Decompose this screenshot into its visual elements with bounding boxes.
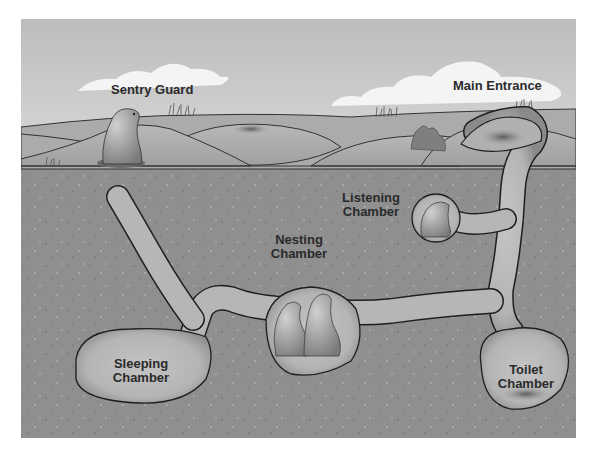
label-main-entrance: Main Entrance [453, 79, 542, 93]
label-listening-line1: Listening [333, 191, 409, 205]
label-nesting-line1: Nesting [261, 233, 337, 247]
label-toilet-chamber: Toilet Chamber [488, 363, 564, 391]
label-toilet-line1: Toilet [488, 363, 564, 377]
label-toilet-line2: Chamber [488, 377, 564, 391]
label-sentry-guard: Sentry Guard [111, 83, 193, 97]
label-nesting-line2: Chamber [261, 247, 337, 261]
burrow-diagram: Sentry Guard Main Entrance Listening Cha… [21, 19, 576, 438]
label-listening-chamber: Listening Chamber [333, 191, 409, 219]
label-listening-line2: Chamber [333, 205, 409, 219]
surface-hole [233, 124, 269, 134]
label-sleeping-line1: Sleeping [103, 357, 179, 371]
label-nesting-chamber: Nesting Chamber [261, 233, 337, 261]
label-sleeping-chamber: Sleeping Chamber [103, 357, 179, 385]
label-sleeping-line2: Chamber [103, 371, 179, 385]
